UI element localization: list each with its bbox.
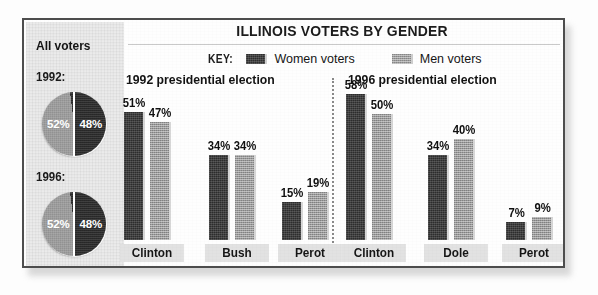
bar-1996-perot-men [532,217,553,240]
legend-label-women: Women voters [274,52,354,66]
legend-entry-men: Men voters [392,52,482,66]
pie-year-label-1992: 1992: [36,70,65,84]
title-divider-rule [128,44,560,45]
bar-col-1996-dole-women: 34% [428,155,449,240]
bar-1992-clinton-women [124,112,145,240]
bar-value-1992-bush-men: 34% [234,139,257,153]
bar-col-1996-perot-men: 9% [532,217,553,240]
bar-col-1992-bush-men: 34% [235,155,256,240]
candidate-label-1996-dole: Dole [424,244,488,262]
section-divider [332,78,334,258]
section-title-1996: 1996 presidential election [348,72,497,87]
bar-1992-clinton-men [150,122,171,240]
bars-1992-clinton: 51% 47% [124,112,171,240]
bars-1992-bush: 34% 34% [209,155,256,240]
pie-women-value-1996: 52% [47,218,69,230]
bar-col-1992-clinton-men: 47% [150,122,171,240]
bar-col-1996-dole-men: 40% [454,139,475,240]
infographic-panel: All voters 1992: 52% 48% 1996: 52% 48% I… [22,18,565,268]
sidebar-title: All voters [36,38,91,53]
bars-1992-perot: 15% 19% [282,192,329,240]
pie-divider-1996 [73,192,75,256]
bar-1996-dole-men [454,139,475,240]
bar-col-1992-bush-women: 34% [209,155,230,240]
bar-col-1996-clinton-men: 50% [372,114,393,240]
candidate-label-1992-bush: Bush [205,244,269,262]
bar-value-1996-clinton-men: 50% [371,98,394,112]
bar-value-1992-bush-women: 34% [208,139,231,153]
bar-1992-bush-men [235,155,256,240]
bar-value-1992-clinton-men: 47% [149,106,172,120]
pie-year-label-1996: 1996: [36,170,65,184]
pie-men-value-1992: 48% [80,118,102,130]
pie-women-value-1992: 52% [47,118,69,130]
bar-1996-perot-women [506,222,527,240]
bar-value-1996-perot-women: 7% [508,206,524,220]
bar-col-1992-perot-women: 15% [282,202,303,240]
section-title-1992: 1992 presidential election [126,72,275,87]
bar-value-1996-dole-men: 40% [453,123,476,137]
bar-col-1996-clinton-women: 58% [346,94,367,240]
bar-1996-clinton-men [372,114,393,240]
candidate-label-1996-perot: Perot [502,244,565,262]
page-title: ILLINOIS VOTERS BY GENDER [147,22,538,39]
bar-value-1996-dole-women: 34% [427,139,450,153]
chart-legend: KEY: Women voters Men voters [128,48,560,70]
candidate-label-1992-clinton: Clinton [120,244,184,262]
bar-value-1992-perot-men: 19% [307,176,330,190]
bars-1996-perot: 7% 9% [506,217,553,240]
bar-value-1996-clinton-women: 58% [345,78,368,92]
all-voters-sidebar: All voters 1992: 52% 48% 1996: 52% 48% [26,22,124,268]
bar-value-1992-perot-women: 15% [281,186,304,200]
bars-1996-clinton: 58% 50% [346,94,393,240]
bar-1996-clinton-women [346,94,367,240]
legend-entry-women: Women voters [246,52,354,66]
pie-chart-1996: 52% 48% [42,192,106,256]
bar-1992-perot-women [282,202,303,240]
candidate-label-1996-clinton: Clinton [342,244,406,262]
infographic-page: All voters 1992: 52% 48% 1996: 52% 48% I… [0,0,598,295]
legend-swatch-men-icon [392,54,413,64]
legend-swatch-women-icon [246,54,267,64]
bar-value-1996-perot-men: 9% [534,201,550,215]
bar-col-1992-clinton-women: 51% [124,112,145,240]
pie-men-value-1996: 48% [80,218,102,230]
bar-col-1996-perot-women: 7% [506,222,527,240]
pie-divider-1992 [73,92,75,156]
bar-1992-bush-women [209,155,230,240]
bar-1992-perot-men [308,192,329,240]
legend-key-label: KEY: [208,52,233,66]
legend-label-men: Men voters [420,52,482,66]
pie-chart-1992: 52% 48% [42,92,106,156]
bar-col-1992-perot-men: 19% [308,192,329,240]
candidate-label-1992-perot: Perot [278,244,342,262]
bar-1996-dole-women [428,155,449,240]
bar-value-1992-clinton-women: 51% [123,96,146,110]
bars-1996-dole: 34% 40% [428,139,475,240]
